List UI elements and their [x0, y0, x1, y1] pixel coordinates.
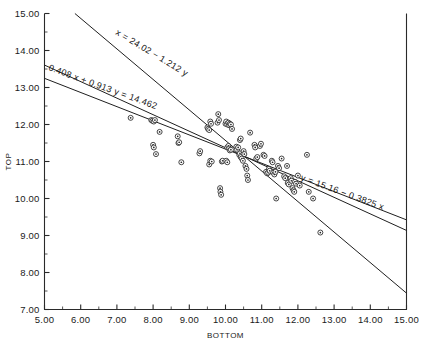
- data-point: [306, 189, 311, 194]
- y-tick-label: 12.00: [15, 119, 40, 130]
- data-point: [175, 134, 180, 139]
- y-axis-tick-labels: 7.008.009.0010.0011.0012.0013.0014.0015.…: [15, 8, 40, 315]
- x-tick-label: 8.00: [143, 314, 162, 325]
- x-tick-label: 13.00: [322, 314, 347, 325]
- data-point: [248, 130, 253, 135]
- y-tick-label: 15.00: [15, 8, 40, 19]
- data-point: [209, 159, 214, 164]
- data-point: [179, 160, 184, 165]
- data-point: [283, 176, 288, 181]
- data-point: [228, 147, 233, 152]
- data-point: [274, 196, 279, 201]
- data-point: [151, 145, 156, 150]
- data-point: [285, 163, 290, 168]
- data-point: [219, 192, 224, 197]
- data-point: [262, 153, 267, 158]
- y-tick-label: 10.00: [15, 193, 40, 204]
- x-tick-label: 12.00: [286, 314, 311, 325]
- data-point: [255, 155, 260, 160]
- data-point: [244, 166, 249, 171]
- regression-lines: [45, 14, 407, 294]
- y-axis-title: TOP: [4, 153, 13, 171]
- y-tick-label: 7.00: [20, 304, 39, 315]
- data-point: [236, 145, 241, 150]
- data-point: [152, 118, 157, 123]
- data-point: [230, 126, 235, 131]
- y-on-x-regression-equation-label: y = 15.16 − 0.3825 x: [299, 172, 385, 212]
- data-point: [216, 112, 221, 117]
- data-point: [258, 141, 263, 146]
- data-point: [277, 166, 282, 171]
- data-point: [270, 160, 275, 165]
- data-point: [177, 140, 182, 145]
- data-point: [240, 158, 245, 163]
- data-point: [297, 183, 302, 188]
- y-tick-label: 9.00: [20, 230, 39, 241]
- x-tick-label: 6.00: [71, 314, 90, 325]
- data-point: [295, 173, 300, 178]
- data-points: [128, 112, 323, 235]
- data-point: [209, 121, 214, 126]
- x-tick-label: 14.00: [358, 314, 383, 325]
- data-point: [311, 196, 316, 201]
- data-point: [245, 178, 250, 183]
- y-tick-label: 13.00: [15, 82, 40, 93]
- y-tick-label: 11.00: [15, 156, 39, 167]
- x-axis-tick-labels: 5.006.007.008.009.0010.0011.0012.0013.00…: [35, 314, 419, 325]
- x-tick-label: 9.00: [180, 314, 199, 325]
- data-point: [304, 152, 309, 157]
- x-axis-title: BOTTOM: [207, 331, 244, 340]
- scatter-plot: 5.006.007.008.009.0010.0011.0012.0013.00…: [0, 0, 425, 347]
- x-on-y-regression-equation-label: x = 24.02 − 1.212 y: [114, 27, 190, 78]
- data-point: [207, 128, 212, 133]
- x-tick-label: 11.00: [250, 314, 274, 325]
- chart-page: 5.006.007.008.009.0010.0011.0012.0013.00…: [0, 0, 425, 347]
- x-tick-label: 7.00: [107, 314, 126, 325]
- data-point: [238, 136, 243, 141]
- y-tick-label: 14.00: [15, 45, 40, 56]
- data-point: [318, 230, 323, 235]
- data-point: [128, 115, 133, 120]
- data-point: [242, 152, 247, 157]
- data-point: [153, 152, 158, 157]
- data-point: [279, 156, 284, 161]
- data-point: [216, 118, 221, 123]
- data-point: [157, 129, 162, 134]
- data-point: [253, 145, 258, 150]
- x-tick-label: 10.00: [213, 314, 238, 325]
- x-tick-label: 15.00: [394, 314, 419, 325]
- data-point: [225, 160, 230, 165]
- data-point: [292, 189, 297, 194]
- data-point: [198, 149, 203, 154]
- x-tick-label: 5.00: [35, 314, 54, 325]
- y-tick-label: 8.00: [20, 267, 39, 278]
